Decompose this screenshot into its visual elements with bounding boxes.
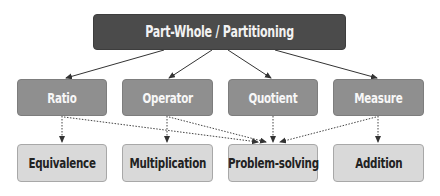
- construct-label: Measure: [354, 90, 402, 106]
- construct-node-quotient: Quotient: [228, 79, 318, 116]
- construct-node-measure: Measure: [333, 79, 424, 116]
- construct-label: Ratio: [47, 90, 76, 106]
- solid-edges: [66, 50, 377, 78]
- outcome-node-addition: Addition: [333, 144, 424, 182]
- edge-root-measure: [275, 50, 377, 78]
- construct-label: Operator: [142, 90, 192, 106]
- outcome-label: Equivalence: [28, 155, 95, 171]
- root-node-part-whole: Part-Whole / Partitioning: [93, 14, 346, 50]
- dotted-edges: [62, 116, 378, 142]
- outcome-node-multiplication: Multiplication: [122, 144, 213, 182]
- construct-node-operator: Operator: [122, 79, 213, 116]
- construct-label: Quotient: [248, 90, 297, 106]
- edge-measure-problem-solving: [280, 117, 376, 142]
- edge-operator-problem-solving: [169, 117, 266, 142]
- outcome-label: Addition: [355, 155, 402, 171]
- outcome-node-equivalence: Equivalence: [17, 144, 107, 182]
- outcome-label: Multiplication: [129, 155, 206, 171]
- root-node-label: Part-Whole / Partitioning: [145, 23, 294, 41]
- outcome-label: Problem-solving: [228, 155, 319, 171]
- edge-ratio-problem-solving: [64, 117, 258, 142]
- edge-root-operator: [169, 50, 212, 78]
- edge-root-ratio: [66, 50, 164, 78]
- construct-node-ratio: Ratio: [17, 79, 107, 116]
- outcome-node-problem-solving: Problem-solving: [228, 144, 318, 182]
- edge-root-quotient: [228, 50, 271, 78]
